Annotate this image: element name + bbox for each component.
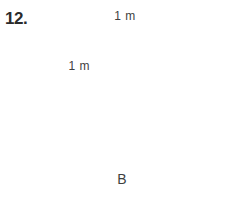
figure-caption-label: B bbox=[0, 172, 244, 186]
figure-stage: 12. 1 m 1 m B bbox=[0, 0, 244, 199]
polyomino-figure-svg bbox=[0, 0, 244, 199]
